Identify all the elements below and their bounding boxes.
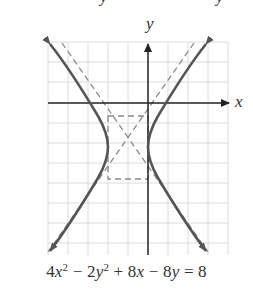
eq-coef: 4: [46, 262, 55, 281]
eq-var: x: [55, 262, 63, 281]
x-axis-label: x: [235, 92, 243, 112]
hyperbola-graph: [0, 0, 253, 289]
hyperbola-right-branch: [148, 44, 206, 251]
eq-term: − 8: [144, 262, 171, 281]
eq-rhs: = 8: [179, 262, 206, 281]
grid: [48, 42, 228, 255]
eq-term: − 2: [68, 262, 95, 281]
equation-caption: 4x2 − 2y2 + 8x − 8y = 8: [0, 262, 253, 282]
y-axis-label: y: [146, 14, 154, 34]
hyperbola-left-branch: [50, 44, 108, 251]
eq-term: + 8: [109, 262, 136, 281]
